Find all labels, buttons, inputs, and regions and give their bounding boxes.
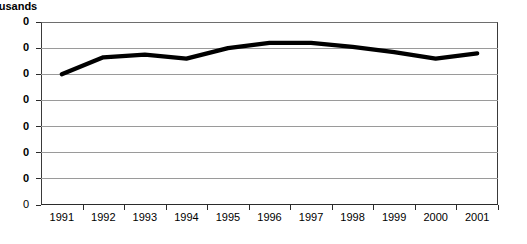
y-axis-tick-mark: [36, 205, 41, 206]
x-axis-tick-label: 1998: [340, 211, 364, 223]
x-axis-tick-label: 1996: [257, 211, 281, 223]
gridline: [41, 126, 498, 127]
x-axis-tick-label: 2000: [423, 211, 447, 223]
x-axis-tick-label: 1999: [382, 211, 406, 223]
x-axis-tick-mark: [166, 205, 167, 210]
x-axis-tick-label: 1993: [133, 211, 157, 223]
x-axis-tick-label: 1997: [299, 211, 323, 223]
x-axis-tick-mark: [124, 205, 125, 210]
x-axis-tick-mark: [373, 205, 374, 210]
y-axis-tick-label: 0: [0, 67, 29, 79]
y-axis-tick-mark: [36, 100, 41, 101]
y-axis-tick-label: 0: [0, 93, 29, 105]
x-axis-tick-mark: [290, 205, 291, 210]
x-axis-tick-label: 1994: [174, 211, 198, 223]
y-axis-tick-label: 0: [0, 198, 29, 210]
gridline: [41, 74, 498, 75]
y-axis-tick-mark: [36, 74, 41, 75]
y-axis-tick-mark: [36, 178, 41, 179]
y-axis-tick-label: 0: [0, 41, 29, 53]
x-axis-tick-mark: [207, 205, 208, 210]
x-axis-tick-label: 1992: [91, 211, 115, 223]
x-axis-tick-mark: [332, 205, 333, 210]
line-chart: ousands 00000000 19911992199319941995199…: [0, 0, 527, 244]
y-axis-tick-mark: [36, 48, 41, 49]
y-axis-tick-mark: [36, 152, 41, 153]
x-axis-tick-mark: [83, 205, 84, 210]
x-axis-tick-mark: [415, 205, 416, 210]
gridline: [41, 48, 498, 49]
axis-unit-caption: ousands: [0, 0, 37, 12]
x-axis-tick-label: 2001: [465, 211, 489, 223]
y-axis-tick-label: 0: [0, 120, 29, 132]
y-axis-tick-label: 0: [0, 146, 29, 158]
y-axis-tick-mark: [36, 126, 41, 127]
x-axis-tick-label: 1991: [50, 211, 74, 223]
y-axis-tick-label: 0: [0, 15, 29, 27]
x-axis-tick-mark: [456, 205, 457, 210]
gridline: [41, 152, 498, 153]
x-axis-tick-mark: [249, 205, 250, 210]
x-axis-tick-label: 1995: [216, 211, 240, 223]
gridline: [41, 178, 498, 179]
y-axis-tick-mark: [36, 22, 41, 23]
x-axis-tick-mark: [498, 205, 499, 210]
gridline: [41, 100, 498, 101]
y-axis-tick-label: 0: [0, 172, 29, 184]
